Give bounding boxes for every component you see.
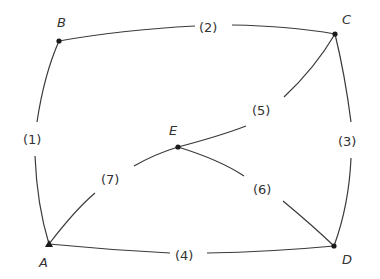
edge-label-3: (3)	[338, 134, 356, 149]
edge-label-4: (4)	[175, 248, 193, 263]
graph-diagram: (1) (2) (3) (4) (5) (6) (7) A B C D E	[0, 0, 380, 279]
edge-label-6: (6)	[253, 182, 271, 197]
node-d-dot	[331, 243, 336, 248]
node-e-dot	[175, 144, 180, 149]
edge-7-lower	[49, 193, 95, 244]
edge-4-left	[49, 244, 170, 253]
edge-4-right	[207, 246, 334, 253]
edge-3-upper	[335, 34, 351, 122]
edge-6-upper	[178, 147, 244, 176]
edge-5-upper	[284, 34, 335, 97]
edge-label-5: (5)	[252, 103, 270, 118]
edge-3-lower	[334, 158, 351, 246]
edge-7-upper	[134, 147, 178, 166]
edge-5-lower	[178, 126, 246, 147]
node-label-b: B	[57, 15, 66, 30]
edge-1-upper	[37, 41, 59, 122]
edge-2-left	[59, 26, 195, 41]
node-label-e: E	[169, 123, 178, 138]
node-label-c: C	[342, 12, 352, 27]
edge-label-7: (7)	[101, 172, 119, 187]
node-label-a: A	[38, 255, 48, 270]
edge-1-lower	[35, 156, 49, 244]
edge-2-right	[232, 25, 335, 34]
edge-6-lower	[283, 201, 334, 246]
node-label-d: D	[342, 252, 352, 267]
edge-label-1: (1)	[23, 132, 41, 147]
node-c-dot	[332, 31, 337, 36]
edge-label-2: (2)	[199, 20, 217, 35]
node-b-dot	[56, 38, 61, 43]
